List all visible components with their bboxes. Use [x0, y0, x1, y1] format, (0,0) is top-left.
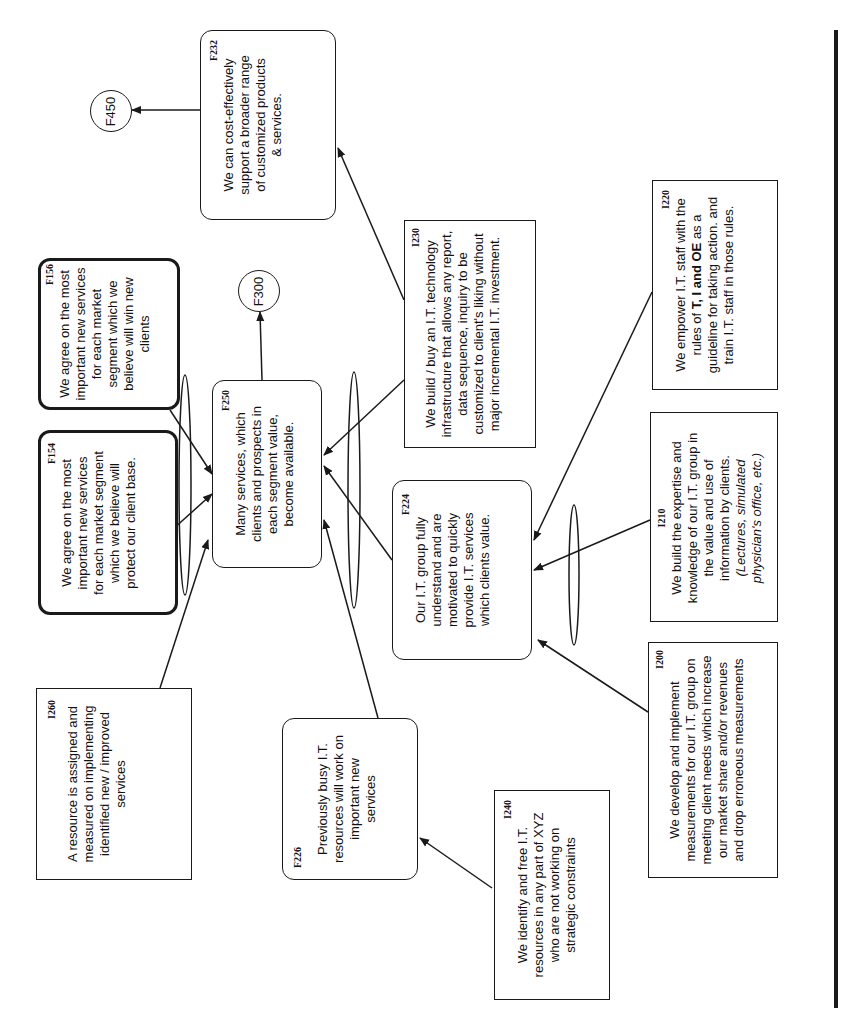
arrow-f154-to-f250	[172, 494, 212, 530]
connector-f450: F450	[90, 90, 132, 132]
and-ellipse-right	[348, 372, 360, 608]
node-i260: I260 A resource is assigned and measured…	[36, 688, 192, 880]
node-f232: F232 We can cost-effectively support a b…	[200, 30, 336, 220]
node-ref: I230	[410, 228, 421, 247]
text-emphasis: T, I and OE	[689, 243, 704, 309]
node-i240: I240 We identify and free I.T. resources…	[494, 790, 610, 1000]
node-text: We agree on the most important new servi…	[59, 448, 139, 598]
node-ref: F226	[292, 847, 303, 868]
node-i200: I200 We develop and implement measuremen…	[648, 642, 778, 878]
arrow-f226-to-f250	[324, 520, 378, 718]
node-ref: I200	[654, 650, 665, 669]
node-text: We build the expertise and knowledge of …	[669, 428, 733, 608]
node-text: We build / buy an I.T. technology infras…	[423, 228, 503, 440]
node-f154: F154 We agree on the most important new …	[38, 430, 178, 615]
node-ref: I210	[656, 509, 667, 528]
arrow-i220-to-f224	[534, 292, 652, 540]
node-text-italic: (Lectures, simulated physician's office,…	[733, 433, 765, 603]
connector-label: F450	[103, 96, 118, 126]
node-text: Our I.T. group fully understand and are …	[413, 505, 493, 635]
connector-f300: F300	[238, 270, 280, 312]
node-f224: F224 Our I.T. group fully understand and…	[392, 480, 532, 660]
arrow-i200-to-f224	[538, 640, 648, 712]
node-text: We identify and free I.T. resources in a…	[515, 802, 579, 988]
and-ellipse-left	[179, 375, 191, 595]
node-i220: I220 We empower I.T. staff with the rule…	[652, 180, 778, 390]
arrow-i240-to-f226	[420, 838, 492, 888]
node-text: Many services, which clients and prospec…	[233, 399, 297, 549]
node-ref: I240	[502, 800, 513, 819]
node-f156: F156 We agree on the most important new …	[38, 258, 180, 410]
node-f226: F226 Previously busy I.T. resources will…	[282, 718, 418, 880]
page-rule-line	[834, 30, 838, 1008]
arrow-f250-to-f300	[260, 312, 262, 380]
node-text: A resource is assigned and measured on i…	[65, 703, 129, 865]
arrow-i230-to-f250	[324, 380, 404, 455]
arrow-i210-to-f224	[534, 520, 650, 570]
node-ref: I220	[660, 190, 671, 209]
node-ref: F250	[220, 390, 231, 411]
arrow-i230-to-f232	[338, 148, 404, 300]
node-text: We can cost-effectively support a broade…	[221, 55, 285, 195]
node-ref: F154	[46, 443, 57, 464]
connector-label: F300	[251, 276, 266, 306]
node-text: Previously busy I.T. resources will work…	[315, 734, 379, 864]
arrow-f224-to-f250	[324, 466, 392, 560]
node-i210: I210 We build the expertise and knowledg…	[650, 412, 778, 622]
node-ref: F224	[400, 494, 411, 515]
node-text: We agree on the most important new servi…	[57, 264, 153, 404]
diagram-canvas: F232 We can cost-effectively support a b…	[0, 0, 844, 1034]
node-i230: I230 We build / buy an I.T. technology i…	[404, 220, 536, 448]
node-text: We empower I.T. staff with the rules of …	[673, 195, 737, 375]
and-ellipse-f224	[569, 505, 579, 645]
node-ref: F156	[44, 264, 55, 285]
node-ref: F232	[208, 40, 219, 61]
node-text: We develop and implement measurements fo…	[667, 655, 747, 865]
node-ref: I260	[46, 700, 57, 719]
node-f250: F250 Many services, which clients and pr…	[212, 380, 322, 568]
